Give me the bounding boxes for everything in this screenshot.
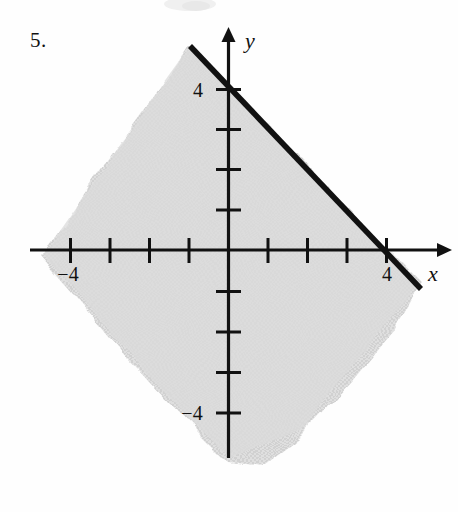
x-tick-label-negative-4: −4 xyxy=(57,263,78,285)
problem-number-label: 5. xyxy=(30,28,47,53)
figure-page: 4 −4 −4 4 y x 5. xyxy=(0,0,458,512)
shaded-solution-region xyxy=(40,46,421,466)
y-tick-label-4: 4 xyxy=(193,79,203,101)
x-tick-label-4: 4 xyxy=(382,263,392,285)
coordinate-plane-figure: 4 −4 −4 4 y x xyxy=(0,0,458,512)
y-tick-label-negative-4: −4 xyxy=(181,402,202,424)
x-axis-arrowhead xyxy=(437,243,452,257)
y-axis-label: y xyxy=(243,28,255,53)
scan-artifact xyxy=(164,0,216,11)
x-axis-label: x xyxy=(427,261,438,286)
y-axis-arrowhead xyxy=(222,27,236,42)
